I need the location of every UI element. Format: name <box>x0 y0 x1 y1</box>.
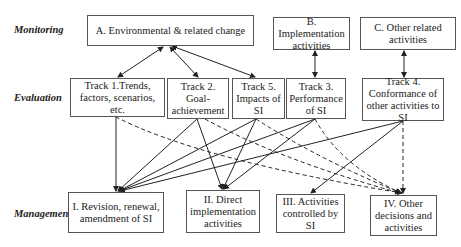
level-label-management: Management <box>14 208 71 219</box>
box-track2: Track 2. Goal-achievement <box>167 78 229 119</box>
box-c-other-related-activities: C. Other related activities <box>360 17 456 50</box>
level-label-monitoring: Monitoring <box>14 24 64 35</box>
box-track5: Track 5. Impacts of SI <box>232 78 285 119</box>
box-ii-direct-implementation: II. Direct implementation activities <box>186 190 260 233</box>
box-track3: Track 3. Performance of SI <box>286 78 346 119</box>
box-iii-activities-controlled: III. Activities controlled by SI <box>276 194 345 233</box>
box-track1: Track 1.Trends, factors, scenarios, etc. <box>70 78 165 117</box>
box-b-implementation-activities: B. Implementation activities <box>273 17 350 50</box>
box-a-environmental-change: A. Environmental & related change <box>87 15 254 46</box>
box-i-revision: I. Revision, renewal, amendment of SI <box>68 192 164 233</box>
box-iv-other-decisions: IV. Other decisions and activities <box>370 195 437 236</box>
level-label-evaluation: Evaluation <box>14 92 62 103</box>
box-track4: Track 4. Conformance of other activities… <box>362 78 444 121</box>
